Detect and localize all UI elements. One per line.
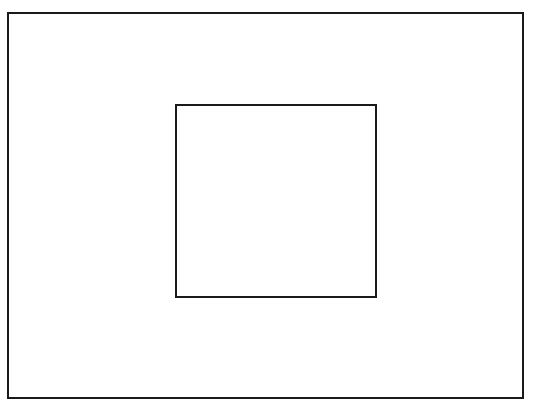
inner-rectangle [175, 104, 377, 298]
